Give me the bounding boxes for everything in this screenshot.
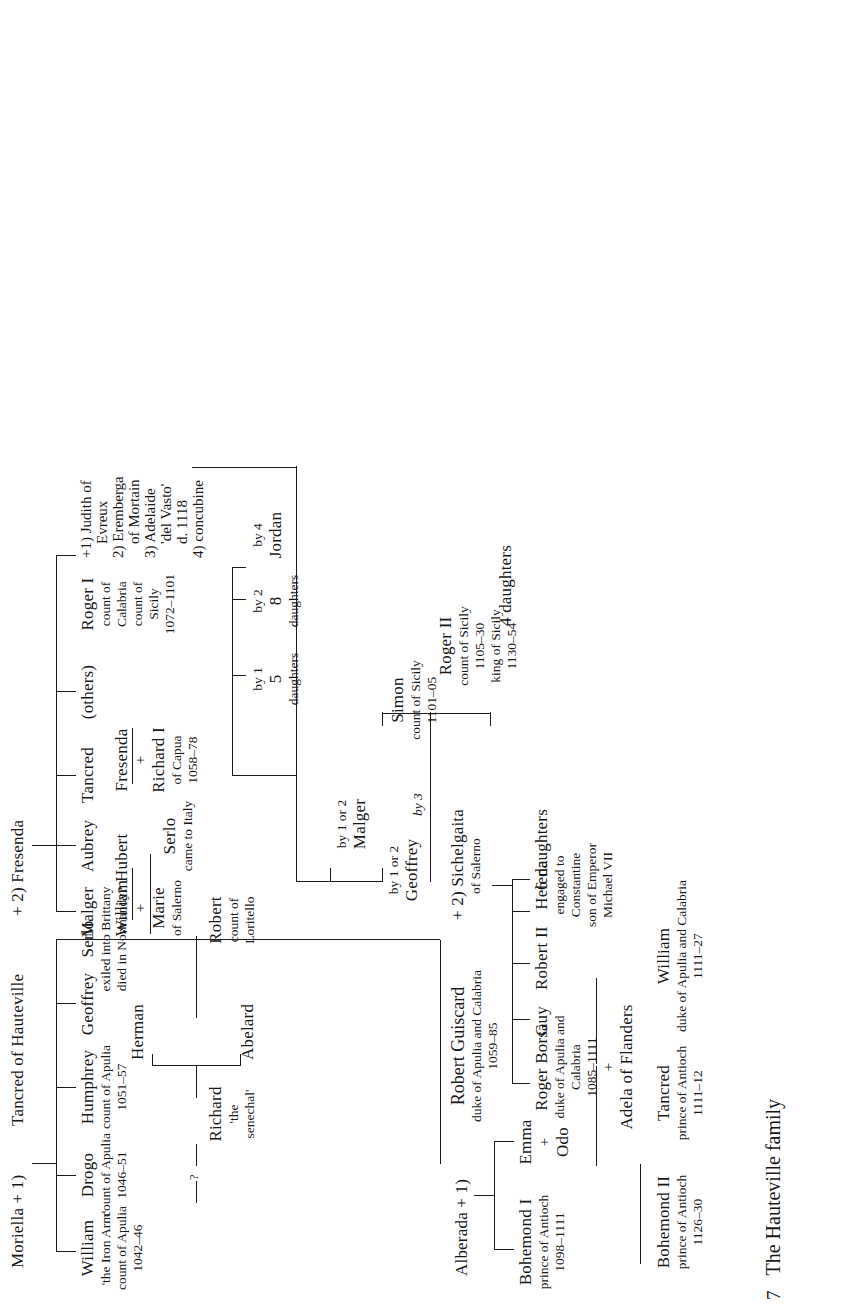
tick-simon <box>382 712 383 726</box>
node-line-1: duke of Apulia and Calabria <box>674 856 690 1056</box>
root-father: Tancred of Hauteville <box>8 974 28 1126</box>
node-line-1: 'the <box>226 1072 242 1156</box>
roger-borsa-to-william-line <box>596 978 597 1064</box>
by-label: by 4 <box>250 498 266 572</box>
node-hubert: Hubert <box>112 834 132 882</box>
node-richard-senechal: Richard 'the senechal' <box>206 1072 258 1156</box>
node-fresenda-daughter: Fresenda + Richard I of Capua 1058–78 <box>112 712 201 808</box>
wife-line-3: 2) Eremberga <box>110 368 126 558</box>
node-herman: Herman <box>128 1004 148 1060</box>
node-name: 8 <box>266 564 286 638</box>
humphrey-children-bar <box>152 1065 240 1066</box>
caption-number: 7 <box>763 1291 784 1301</box>
node-name: Geoffrey <box>402 828 422 912</box>
root-wife2: + 2) Fresenda <box>8 820 28 916</box>
node-line-5: 1072–1101 <box>162 558 178 650</box>
node-jordan: by 4 Jordan <box>250 498 286 572</box>
moriella-sibling-bar <box>56 940 57 1252</box>
node-line-3: 1085–1111 <box>584 1004 600 1130</box>
node-line-1: daughters <box>286 642 302 716</box>
node-line-3: count of <box>130 558 146 650</box>
spouse-line-1: of Salerno <box>169 870 185 946</box>
drop-malger <box>56 911 76 912</box>
node-line-2: Constantine <box>568 826 584 944</box>
marriage-plus: + <box>132 870 149 946</box>
drop-humphrey <box>56 1087 76 1088</box>
drop-aubrey <box>56 845 76 846</box>
node-line-4: Michael VII <box>600 826 616 944</box>
node-name: Aubrey <box>78 814 98 878</box>
roger1-daughters-bar-stem <box>232 775 296 776</box>
node-4-daughters: 4 daughters <box>496 545 516 626</box>
node-line-1: daughters <box>286 564 302 638</box>
wife-line-2: Evreux <box>94 368 110 544</box>
tick-malger-child <box>330 868 331 882</box>
node-name: Tancred <box>78 740 98 810</box>
node-line-1: count of Apulia <box>98 1130 114 1220</box>
tick-by2 <box>232 599 246 600</box>
wife-line-8: 4) concubine <box>190 368 206 558</box>
node-line-2: Loritello <box>242 876 258 964</box>
node-roger-i: Roger I count of Calabria count of Sicil… <box>78 558 178 650</box>
humphrey-stem <box>196 1066 197 1098</box>
node-name: Robert <box>206 876 226 964</box>
node-others: (others) <box>78 656 98 728</box>
node-malger: Malger <box>78 880 98 944</box>
caption-text: The Hauteville family <box>762 1099 784 1276</box>
q-to-richard-line <box>196 1144 197 1166</box>
tick-geoffrey-child <box>382 868 383 882</box>
by-label: by 1 or 2 <box>386 828 402 912</box>
node-line-4: Sicily <box>146 558 162 650</box>
node-william-duke: William duke of Apulia and Calabria 1111… <box>654 856 706 1056</box>
node-6-daughters: 6 daughters <box>532 809 552 890</box>
node-simon: Simon count of Sicily 1101–05 <box>388 644 440 756</box>
node-line-1: prince of Antioch <box>536 1186 552 1298</box>
node-name: Robert Guiscard <box>448 926 469 1166</box>
spouse-name: Adela of Flanders <box>617 1004 637 1130</box>
node-name: Jordan <box>266 498 286 572</box>
bohemond1-to-bohemond2-line <box>640 1164 641 1264</box>
marriage-plus: + <box>600 1004 617 1130</box>
roger-i-wives: +1) Judith of Evreux 2) Eremberga of Mor… <box>78 368 206 558</box>
geoffrey-to-robert-line <box>196 936 197 1018</box>
marriage-plus: + <box>132 712 149 808</box>
uncertain-link: ? <box>187 1174 202 1180</box>
fresenda-sibling-bar <box>56 556 57 912</box>
wife-line-6: 'del Vasto' <box>158 368 174 544</box>
drop-drogo <box>56 1175 76 1176</box>
wife-line-1: +1) Judith of <box>78 368 94 558</box>
drop-others <box>56 691 76 692</box>
union2-stem <box>32 845 56 846</box>
node-line-2: Calabria <box>568 1004 584 1130</box>
node-line-2: 1105–30 <box>472 590 488 702</box>
node-line-2: 1098–1111 <box>552 1186 568 1298</box>
spouse-name: Marie <box>149 870 169 946</box>
node-line-2: 1046–51 <box>114 1130 130 1220</box>
node-name: William <box>654 856 674 1056</box>
by3-label: by 3 <box>410 793 426 816</box>
drop-emma <box>494 1141 514 1142</box>
figure-caption: 7 The Hauteville family <box>762 1099 785 1300</box>
node-line-1: duke of Apulia and Calabria <box>469 926 485 1166</box>
union1-stem <box>32 1163 56 1164</box>
node-line-2: 1111–27 <box>690 856 706 1056</box>
drop-william <box>56 1251 76 1252</box>
wife-line-4: of Mortain <box>126 368 142 544</box>
guiscard-feed-run <box>440 940 441 1164</box>
node-line-2: Calabria <box>114 558 130 650</box>
family-tree-page: Moriella + 1) Tancred of Hauteville + 2)… <box>0 0 844 1316</box>
sichelgaita-union-stem <box>492 885 512 886</box>
drop-bohemond1 <box>494 1249 514 1250</box>
rotated-chart-frame: Moriella + 1) Tancred of Hauteville + 2)… <box>0 0 844 1316</box>
node-line-1: count of Apulia <box>98 1038 114 1136</box>
by-label: by 2 <box>250 564 266 638</box>
by-label: by 1 <box>250 642 266 716</box>
drop-roger1 <box>56 555 76 556</box>
node-name: Drogo <box>78 1130 98 1220</box>
node-drogo: Drogo count of Apulia 1046–51 <box>78 1130 130 1220</box>
node-name: Fresenda <box>112 712 132 808</box>
drop-helena <box>512 911 530 912</box>
node-line-3: 1042–46 <box>130 1200 146 1296</box>
node-line-1: duke of Apulia and <box>552 1004 568 1130</box>
node-name: Richard <box>206 1072 226 1156</box>
